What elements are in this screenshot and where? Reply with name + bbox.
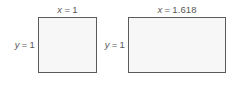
golden-rectangle-height-variable: y [105,39,110,50]
golden-rectangle-width-equals: = [164,4,170,15]
unit-square-height-label: y=1 [4,39,35,51]
unit-square-shape [38,17,97,73]
golden-rectangle-shape [128,17,226,73]
golden-rectangle-height-value: 1 [120,39,125,50]
unit-square-height-equals: = [22,39,28,50]
unit-square-width-variable: x [57,4,62,15]
unit-square-width-label: x=1 [38,4,97,16]
golden-rectangle-height-label: y=1 [94,39,125,51]
unit-square-width-value: 1 [72,4,77,15]
unit-square-group: x=1 y=1 [0,0,98,86]
unit-square-height-variable: y [15,39,20,50]
golden-rectangle-width-label: x=1.618 [128,4,226,16]
unit-square-height-value: 1 [30,39,35,50]
golden-rectangle-height-equals: = [112,39,118,50]
unit-square-width-equals: = [64,4,70,15]
figure-canvas: x=1 y=1 x=1.618 y=1 [0,0,239,86]
golden-rectangle-width-variable: x [157,4,162,15]
golden-rectangle-width-value: 1.618 [172,4,196,15]
golden-rectangle-group: x=1.618 y=1 [98,0,239,86]
